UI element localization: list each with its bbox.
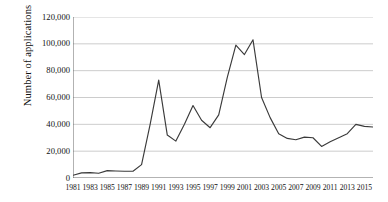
x-tick-label: 1991 [151,183,166,192]
line-chart: Number of applications 020,00040,00060,0… [0,0,388,202]
x-tick-label: 2005 [271,183,286,192]
x-tick-label: 1993 [168,183,183,192]
x-tick-label: 2013 [340,183,355,192]
x-tick-label: 2009 [305,183,320,192]
x-tick-label: 1999 [220,183,235,192]
plot-area [73,17,373,178]
x-tick-label: 1987 [117,183,132,192]
y-tick-label: 60,000 [18,93,70,102]
y-tick-label: 80,000 [18,66,70,75]
y-tick-label: 120,000 [18,13,70,22]
x-tick-label: 1985 [100,183,115,192]
y-tick-label: 100,000 [18,39,70,48]
x-tick-label: 1989 [134,183,149,192]
y-axis-tick-labels: 020,00040,00060,00080,000100,000120,000 [18,0,70,202]
y-tick-label: 0 [18,174,70,183]
x-tick-label: 2001 [237,183,252,192]
x-tick-label: 2015 [357,183,372,192]
x-tick-label: 2011 [323,183,338,192]
x-tick-label: 2007 [288,183,303,192]
x-tick-label: 2003 [254,183,269,192]
x-axis-tick-labels: 1981198319851987198919911993199519971999… [0,183,388,199]
y-tick-label: 20,000 [18,147,70,156]
x-tick-label: 1981 [65,183,80,192]
x-tick-label: 1983 [83,183,98,192]
gridlines [73,17,373,151]
y-tick-label: 40,000 [18,120,70,129]
data-series-line [73,40,373,176]
x-tick-label: 1997 [203,183,218,192]
plot-svg [73,17,373,178]
x-tick-label: 1995 [185,183,200,192]
